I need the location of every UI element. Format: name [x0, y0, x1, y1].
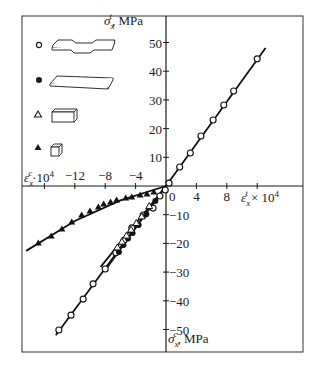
block-specimen-icon [52, 109, 77, 122]
cube-specimen-icon [51, 144, 62, 156]
filled-circle-marker [152, 198, 158, 204]
open-circle-marker [102, 266, 108, 272]
open-circle-marker [177, 164, 183, 170]
x-tick-label: −4 [129, 168, 143, 183]
x-axis-title-tension: εxt × 104 [241, 188, 279, 208]
x-tick-label: −12 [65, 168, 85, 183]
y-tick-label: −20 [169, 236, 189, 251]
open-circle-marker [68, 312, 74, 318]
open-circle-marker [221, 102, 227, 108]
open-circle-marker [166, 180, 172, 186]
open-circle-marker [254, 56, 260, 62]
y-tick-label: 10 [149, 150, 162, 165]
open-circle-marker [157, 193, 163, 199]
open-circle-marker [198, 133, 204, 139]
filled-triangle-marker [87, 207, 94, 213]
filled-circle-icon [36, 77, 42, 83]
filled-triangle-marker [107, 199, 114, 205]
open-circle-marker [210, 117, 216, 123]
x-tick-label: −8 [98, 168, 112, 183]
y-tick-label: 40 [149, 64, 162, 79]
open-circle-marker [162, 187, 168, 193]
x-axis-title-compression: εxc·104 [24, 168, 54, 188]
dogbone-specimen-icon [52, 40, 115, 53]
plot-frame [22, 16, 303, 352]
open-circle-icon [36, 42, 41, 47]
y-tick-label: −40 [169, 294, 189, 309]
x-tick-label: 8 [224, 189, 231, 204]
y-tick-label: 30 [149, 93, 162, 108]
open-triangle-icon [35, 111, 42, 117]
filled-triangle-icon [35, 144, 42, 150]
x-tick-label: 0 [169, 189, 176, 204]
flat-plate-specimen-icon [50, 76, 113, 89]
legend [35, 40, 116, 156]
filled-triangle-marker [78, 211, 85, 217]
legend-item-block [35, 109, 78, 122]
y-axis-title-compression: σxc, MPa [168, 329, 209, 349]
y-tick-label: −10 [169, 208, 189, 223]
stress-strain-chart: −12−8−4480 −50−40−30−20−101020304050 σxt… [0, 0, 319, 369]
legend-item-flat-plate [36, 76, 113, 89]
open-circle-marker [187, 150, 193, 156]
legend-item-dogbone [36, 40, 115, 53]
filled-triangle-marker [100, 201, 107, 207]
filled-triangle-marker [113, 197, 120, 203]
y-axis-title-tension: σxt, MPa [104, 11, 143, 31]
open-triangle-marker [114, 244, 121, 250]
open-circle-marker [90, 281, 96, 287]
y-tick-label: 20 [149, 122, 162, 137]
open-circle-marker [80, 296, 86, 302]
x-tick-label: 4 [193, 189, 200, 204]
open-circle-marker [56, 327, 62, 333]
y-tick-label: 50 [149, 36, 162, 51]
legend-item-cube [35, 144, 63, 156]
open-circle-marker [231, 88, 237, 94]
y-tick-label: −30 [169, 265, 189, 280]
